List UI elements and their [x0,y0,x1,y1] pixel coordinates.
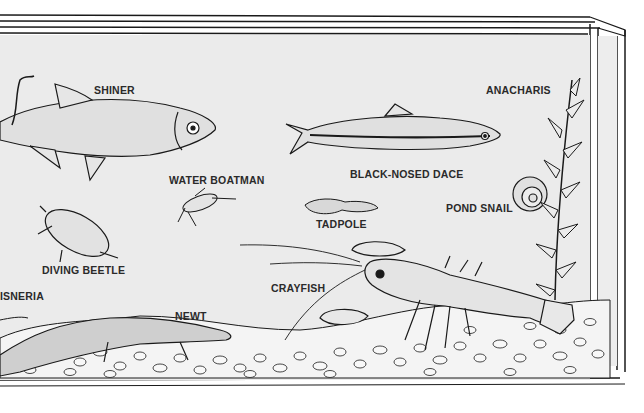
label-tadpole: TADPOLE [316,218,367,230]
label-pond-snail: POND SNAIL [446,202,513,214]
label-vallisneria: ISNERIA [0,290,44,302]
label-water-boatman: WATER BOATMAN [169,174,265,186]
label-anacharis: ANACHARIS [486,84,551,96]
pond-snail [513,177,547,211]
label-diving-beetle: DIVING BEETLE [42,264,125,276]
label-shiner: SHINER [94,84,135,96]
label-crayfish: CRAYFISH [271,282,325,294]
label-newt: NEWT [175,310,207,322]
label-black-nosed-dace: BLACK-NOSED DACE [350,168,463,180]
aquarium-diagram: SHINER WATER BOATMAN BLACK-NOSED DACE AN… [0,0,644,413]
aquarium-illustration [0,0,644,413]
